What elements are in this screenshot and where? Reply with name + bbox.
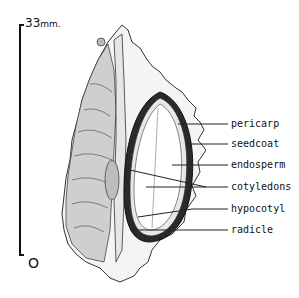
label-hypocotyl: hypocotyl [231,204,285,214]
label-cotyledons: cotyledons [231,182,291,192]
label-pericarp: pericarp [231,119,279,129]
label-seedcoat: seedcoat [231,139,279,149]
ribbed-mesocarp [66,44,116,262]
label-radicle: radicle [231,225,273,235]
label-endosperm: endosperm [231,160,285,170]
fruit-section-drawing [0,0,299,298]
